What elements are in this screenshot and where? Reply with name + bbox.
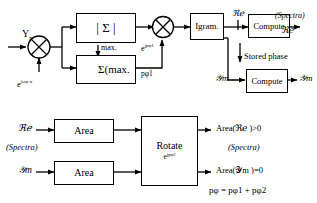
magnitude-sum-block: | Σ | <box>76 13 136 43</box>
result-spectra-note: (Spectra) <box>228 143 260 152</box>
input-signal-subscript: n <box>29 34 32 41</box>
rotate-label: Rotate <box>156 141 182 152</box>
area-block-im: Area <box>54 161 114 185</box>
igram-label: Igram. <box>195 22 219 31</box>
area-re-label: Area <box>74 126 93 137</box>
pphi1-label: pφ1 <box>141 70 153 78</box>
output-im-label: 𝒴m <box>299 74 313 83</box>
spectra-note-top: (Spectra) <box>275 12 305 20</box>
bottom-spectra-note: (Spectra) <box>6 143 38 152</box>
output-re-label: ℜℯ <box>281 26 293 35</box>
igram-block: Igram. <box>190 13 224 40</box>
stored-phase-label: Stored phase <box>244 52 288 61</box>
igram-im-label: 𝒴m <box>215 74 229 83</box>
bottom-re-input-label: ℜℯ <box>18 124 32 134</box>
pphi1-exp-value: jpφ1 <box>145 43 154 48</box>
area-im-label: Area <box>74 168 93 179</box>
max-label: max. <box>101 44 117 52</box>
rotate-exponential-label: ejpφ2 <box>164 153 176 161</box>
result-phase-equation: pφ = pφ1 + pφ2 <box>209 186 266 195</box>
phase-ramp-label: ejωφ·n <box>17 81 32 89</box>
result-area-re: Area(ℜℯ )>0 <box>216 124 261 133</box>
phase-ramp-exponent: jωφ·n <box>21 79 33 84</box>
rotate-block: Rotate ejpφ2 <box>141 116 198 186</box>
multiplier-2-icon <box>153 17 174 38</box>
pphi1-exponential-label: ejpφ1 <box>141 45 154 53</box>
signal-flow-diagram: | Σ | Σ(max. Igram. Compute Compute Yn e… <box>0 0 317 203</box>
compute-im-label: Compute <box>251 77 282 86</box>
compute-block-im: Compute <box>246 69 288 93</box>
angle-sum-label: Σ(max. <box>98 64 130 76</box>
bottom-im-input-label: 𝒴m <box>18 166 32 176</box>
result-area-im: Area(𝒴m )=0 <box>216 166 263 175</box>
magnitude-sum-label: | Σ | <box>96 21 115 35</box>
rotate-exp-value: jpφ2 <box>167 152 176 157</box>
area-block-re: Area <box>54 119 114 143</box>
input-signal-label: Yn <box>22 29 32 39</box>
compute-re-label: Compute <box>253 22 284 31</box>
angle-sum-block: Σ(max. <box>76 55 136 84</box>
igram-re-label: ℜℯ <box>232 9 244 18</box>
